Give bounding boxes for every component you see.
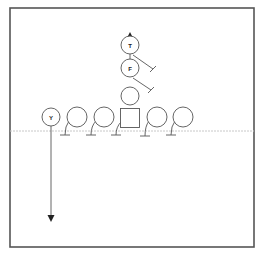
player-lt: [67, 107, 87, 127]
player-label: F: [128, 66, 132, 72]
player-label: T: [128, 43, 132, 49]
player-t: T: [121, 36, 139, 54]
player-circle-icon: [173, 107, 193, 127]
player-circle-icon: [147, 107, 167, 127]
player-qb: [121, 87, 139, 105]
player-rt: [173, 107, 193, 127]
play-diagram: YFT: [0, 0, 264, 253]
player-circle-icon: [67, 107, 87, 127]
player-rg: [147, 107, 167, 127]
center-square-icon: [121, 109, 140, 128]
player-c: [121, 109, 140, 128]
player-circle-icon: [121, 87, 139, 105]
player-lg: [94, 107, 114, 127]
player-f: F: [121, 59, 139, 77]
player-y: Y: [42, 108, 60, 126]
player-label: Y: [49, 115, 53, 121]
player-circle-icon: [94, 107, 114, 127]
